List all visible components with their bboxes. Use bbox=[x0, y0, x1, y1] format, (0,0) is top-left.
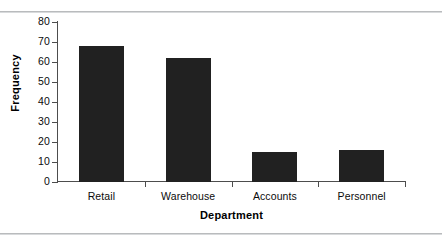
y-axis-tick-mark bbox=[52, 162, 57, 163]
y-axis-tick-label: 50 bbox=[0, 76, 50, 88]
y-axis-tick-label: 30 bbox=[0, 116, 50, 128]
bar-accounts bbox=[252, 152, 297, 182]
y-axis-tick-label-text: 20 bbox=[4, 136, 50, 147]
bar-personnel bbox=[339, 150, 384, 182]
y-axis-tick-mark bbox=[52, 142, 57, 143]
y-axis-tick-mark bbox=[52, 182, 57, 183]
y-axis-title: Frequency bbox=[9, 43, 21, 123]
bottom-divider-rule bbox=[0, 233, 442, 234]
y-axis-tick-label: 70 bbox=[0, 36, 50, 48]
y-axis-tick-label-text: 80 bbox=[4, 16, 50, 27]
x-axis-tick-mark bbox=[318, 182, 319, 187]
plot-area bbox=[58, 22, 405, 182]
y-axis-tick-mark bbox=[52, 122, 57, 123]
bar-warehouse bbox=[166, 58, 211, 182]
x-axis-category-label-accounts: Accounts bbox=[232, 191, 319, 203]
y-axis-tick-mark bbox=[52, 22, 57, 23]
y-axis-tick-label: 40 bbox=[0, 96, 50, 108]
top-divider-rule bbox=[0, 11, 442, 12]
x-axis-tick-mark bbox=[145, 182, 146, 187]
y-axis-tick-mark bbox=[52, 62, 57, 63]
x-axis-tick-mark bbox=[232, 182, 233, 187]
y-axis-tick-mark bbox=[52, 82, 57, 83]
y-axis-tick-label: 60 bbox=[0, 56, 50, 68]
y-axis-tick-mark bbox=[52, 102, 57, 103]
x-axis-category-label-warehouse: Warehouse bbox=[145, 191, 232, 203]
y-axis-tick-label-text: 10 bbox=[4, 156, 50, 167]
y-axis-tick-mark bbox=[52, 42, 57, 43]
x-axis-category-label-personnel: Personnel bbox=[318, 191, 405, 203]
x-axis-tick-mark bbox=[405, 182, 406, 187]
y-axis-tick-label: 80 bbox=[0, 16, 50, 28]
bar-chart-figure: 01020304050607080 RetailWarehouseAccount… bbox=[0, 0, 442, 246]
y-axis-tick-label: 0 bbox=[0, 176, 50, 188]
x-axis-title: Department bbox=[58, 209, 405, 221]
x-axis-category-label-retail: Retail bbox=[58, 191, 145, 203]
y-axis-tick-label: 20 bbox=[0, 136, 50, 148]
bar-retail bbox=[79, 46, 124, 182]
y-axis-tick-label: 10 bbox=[0, 156, 50, 168]
y-axis-tick-label-text: 0 bbox=[4, 176, 50, 187]
